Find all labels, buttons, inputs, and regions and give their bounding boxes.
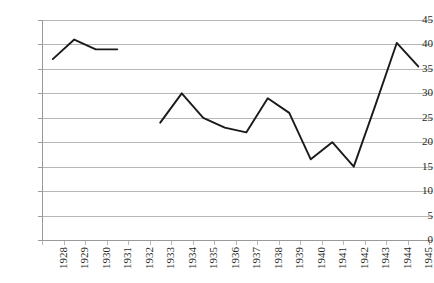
x-tick-label: 1937 (251, 247, 262, 269)
x-tick-label: 1942 (359, 247, 370, 269)
x-tick-label: 1930 (101, 247, 112, 269)
x-tick-label: 1931 (122, 247, 133, 269)
x-tick-label: 1929 (79, 247, 90, 269)
x-tick-label: 1928 (58, 247, 69, 269)
x-tick-label: 1934 (187, 247, 198, 269)
x-tick-label: 1932 (144, 247, 155, 269)
x-tick-label: 1943 (380, 247, 391, 269)
x-tick-label: 1938 (273, 247, 284, 269)
x-tick-label: 1945 (423, 247, 434, 269)
x-tick-label: 1941 (337, 247, 348, 269)
x-tick-label: 1940 (316, 247, 327, 269)
x-tick-label: 1944 (402, 247, 413, 269)
x-tick-label: 1935 (208, 247, 219, 269)
x-tick-label: 1933 (165, 247, 176, 269)
x-tick-label: 1939 (294, 247, 305, 269)
x-tick-label: 1936 (230, 247, 241, 269)
